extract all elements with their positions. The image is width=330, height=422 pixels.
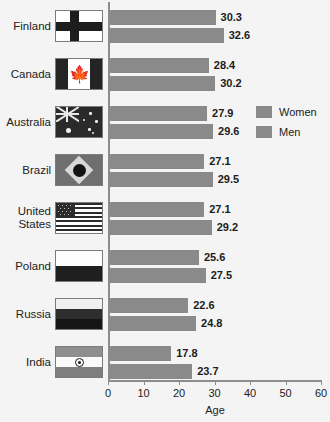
category-row-india: India: [0, 338, 108, 386]
x-tick: [179, 380, 180, 385]
bar-value-label: 29.6: [218, 124, 239, 139]
flag-united-states: [55, 202, 103, 234]
bar-value-label: 29.5: [218, 172, 239, 187]
bar-value-label: 24.8: [201, 316, 222, 331]
category-label: India: [0, 356, 51, 369]
bar-russia-women: [108, 298, 188, 313]
x-tick-label: 20: [173, 387, 185, 399]
flag-finland: [55, 10, 103, 42]
bar-value-label: 22.6: [193, 298, 214, 313]
bar-canada-women: [108, 58, 209, 73]
bar-value-label: 30.2: [220, 76, 241, 91]
bar-value-label: 27.9: [212, 106, 233, 121]
bar-australia-women: [108, 106, 207, 121]
bar-united-states-women: [108, 202, 204, 217]
bar-value-label: 30.3: [221, 10, 242, 25]
category-row-brazil: Brazil: [0, 146, 108, 194]
x-tick-label: 30: [208, 387, 220, 399]
category-label: Poland: [0, 260, 51, 273]
x-tick: [250, 380, 251, 385]
bar-brazil-women: [108, 154, 204, 169]
bar-value-label: 27.1: [209, 154, 230, 169]
flag-poland: [55, 250, 103, 282]
x-tick: [108, 380, 109, 385]
x-tick-label: 40: [244, 387, 256, 399]
bar-india-men: [108, 364, 192, 379]
bar-value-label: 23.7: [197, 364, 218, 379]
legend-label-women: Women: [279, 106, 317, 118]
bar-canada-men: [108, 76, 215, 91]
x-tick-label: 60: [315, 387, 327, 399]
bar-value-label: 28.4: [214, 58, 235, 73]
bar-poland-women: [108, 250, 199, 265]
bar-value-label: 32.6: [229, 28, 250, 43]
category-label: Russia: [0, 308, 51, 321]
bar-value-label: 27.5: [211, 268, 232, 283]
flag-brazil: [55, 154, 103, 186]
bar-united-states-men: [108, 220, 212, 235]
bar-brazil-men: [108, 172, 213, 187]
category-label: Australia: [0, 116, 51, 129]
legend-swatch-men: [256, 126, 272, 138]
x-tick-label: 50: [279, 387, 291, 399]
category-row-united-states: United States: [0, 194, 108, 242]
bar-value-label: 25.6: [204, 250, 225, 265]
bar-chart: Finland Canada 🍁 Australia Brazil: [0, 0, 330, 422]
bar-india-women: [108, 346, 171, 361]
legend-label-men: Men: [279, 126, 300, 138]
flag-australia: [55, 106, 103, 138]
bar-value-label: 17.8: [176, 346, 197, 361]
category-row-poland: Poland: [0, 242, 108, 290]
x-tick: [144, 380, 145, 385]
x-tick: [321, 380, 322, 385]
x-axis-title: Age: [205, 404, 225, 416]
category-row-canada: Canada 🍁: [0, 50, 108, 98]
category-row-russia: Russia: [0, 290, 108, 338]
x-tick-label: 10: [137, 387, 149, 399]
x-tick: [286, 380, 287, 385]
category-label: Brazil: [0, 164, 51, 177]
bar-value-label: 27.1: [209, 202, 230, 217]
bar-finland-women: [108, 10, 216, 25]
bar-value-label: 29.2: [217, 220, 238, 235]
x-tick: [215, 380, 216, 385]
flag-canada: 🍁: [55, 58, 103, 90]
category-label: United States: [0, 205, 51, 231]
category-row-australia: Australia: [0, 98, 108, 146]
category-row-finland: Finland: [0, 2, 108, 50]
x-tick-label: 0: [105, 387, 111, 399]
legend-swatch-women: [256, 106, 272, 118]
bar-russia-men: [108, 316, 196, 331]
category-label: Finland: [0, 20, 51, 33]
flag-india: [55, 346, 103, 378]
category-label: Canada: [0, 68, 51, 81]
flag-russia: [55, 298, 103, 330]
bar-finland-men: [108, 28, 224, 43]
bar-australia-men: [108, 124, 213, 139]
bar-poland-men: [108, 268, 206, 283]
